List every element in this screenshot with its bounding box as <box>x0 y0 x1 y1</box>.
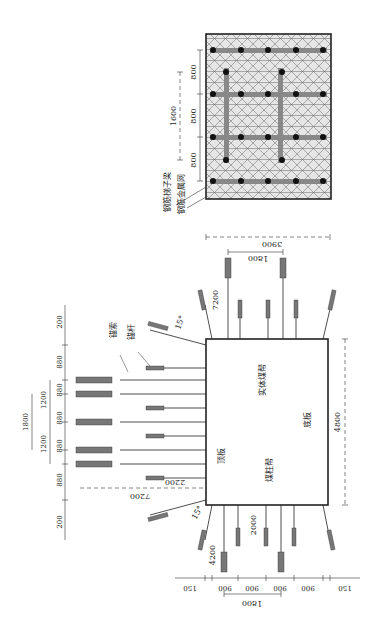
roadway-section: 3900 1800 4800 7200 15° <box>22 234 360 608</box>
roof-spacing-4: 880 <box>56 411 64 424</box>
solid-coal-side-label: 实体煤帮 <box>257 364 267 396</box>
side-spacing-4: 900 <box>273 584 286 592</box>
angle-top-label: 15° <box>173 314 186 330</box>
left-bolt-length-dim: 2000 <box>249 515 258 535</box>
roof-cable-spacing-2: 1200 <box>40 435 48 453</box>
mesh-spacing-2: 800 <box>189 108 198 123</box>
roof-spacing-5: 880 <box>56 439 64 452</box>
side-spacing-2: 900 <box>218 584 231 592</box>
roof-cable-group-dim: 1800 <box>22 413 30 431</box>
mesh-spacing-1: 800 <box>189 64 198 79</box>
roof-cable-length-dim: 7200 <box>130 492 150 501</box>
roof-spacing-6: 880 <box>56 473 64 486</box>
roadway-support-diagram: 800 800 800 1600 钢筋梯子梁 钢筋金属网 3900 1800 4… <box>0 0 383 629</box>
roof-spacing-1: 200 <box>56 315 64 328</box>
side-spacing-5: 900 <box>301 584 314 592</box>
roof-spacing-7: 200 <box>56 515 64 528</box>
roof-bolt-length-dim: 2200 <box>165 478 185 487</box>
ladder-beam-label: 钢筋梯子梁 <box>162 172 172 212</box>
roof-cable-spacing-1: 1200 <box>40 391 48 409</box>
mesh-detail: 800 800 800 1600 钢筋梯子梁 钢筋金属网 <box>162 34 331 214</box>
anchor-bolt-label: 锚杆 <box>126 324 136 340</box>
roof-spacing-2: 880 <box>56 355 64 368</box>
roadway-width-dim: 4800 <box>333 412 342 432</box>
right-cable-spacing-dim: 1800 <box>248 254 268 263</box>
mesh-spacing-3: 800 <box>189 152 198 167</box>
floor-label: 底板 <box>302 412 312 428</box>
side-spacing-6: 150 <box>338 584 351 592</box>
roof-label: 顶板 <box>216 448 226 464</box>
roof-spacing-3: 880 <box>56 383 64 396</box>
left-cable-spacing-dim: 1800 <box>242 599 262 608</box>
angle-bottom-label: 15° <box>190 504 205 521</box>
mesh-group-spacing: 1600 <box>169 106 178 126</box>
side-spacing-3: 900 <box>245 584 258 592</box>
anchor-cable-label: 锚索 <box>108 322 118 338</box>
coal-pillar-side-label: 煤柱帮 <box>264 458 274 482</box>
side-spacing-1: 150 <box>183 584 196 592</box>
roof-supports <box>120 330 206 515</box>
right-cable-length-dim: 7200 <box>211 290 220 310</box>
left-cable-length-dim: 4200 <box>208 545 217 565</box>
metal-mesh-label: 钢筋金属网 <box>176 174 186 214</box>
roadway-height-dim: 3900 <box>262 240 282 249</box>
